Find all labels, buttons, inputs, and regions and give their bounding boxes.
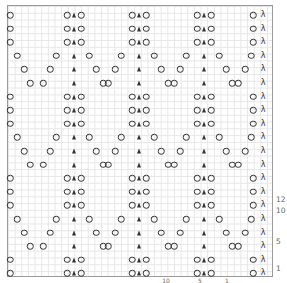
double-decrease-icon — [202, 108, 206, 113]
yarn-over-icon — [250, 25, 257, 32]
yarn-over-icon — [250, 93, 257, 100]
yarn-over-icon — [151, 134, 158, 141]
decrease-icon: λ — [261, 65, 266, 73]
double-decrease-icon — [202, 257, 206, 262]
yarn-over-icon — [177, 148, 184, 155]
yarn-over-icon — [78, 175, 85, 182]
yarn-over-icon — [27, 161, 34, 168]
yarn-over-icon — [250, 175, 257, 182]
decrease-icon: λ — [261, 52, 266, 60]
yarn-over-icon — [194, 93, 201, 100]
yarn-over-icon — [78, 270, 85, 277]
double-decrease-icon — [72, 257, 76, 262]
yarn-over-icon — [27, 80, 34, 87]
yarn-over-icon — [143, 107, 150, 114]
double-decrease-icon — [137, 67, 141, 72]
double-decrease-icon — [137, 203, 141, 208]
yarn-over-icon — [158, 148, 165, 155]
yarn-over-icon — [53, 134, 60, 141]
yarn-over-icon — [40, 243, 47, 250]
double-decrease-icon — [137, 271, 141, 276]
yarn-over-icon — [223, 148, 230, 155]
yarn-over-icon — [7, 39, 14, 46]
yarn-over-icon — [208, 93, 215, 100]
double-decrease-icon — [202, 176, 206, 181]
yarn-over-icon — [7, 270, 14, 277]
yarn-over-icon — [208, 121, 215, 128]
double-decrease-icon — [137, 108, 141, 113]
yarn-over-icon — [171, 161, 178, 168]
row-number-label: 10 — [276, 205, 286, 214]
yarn-over-icon — [194, 39, 201, 46]
yarn-over-icon — [86, 216, 93, 223]
double-decrease-icon — [72, 26, 76, 31]
yarn-over-icon — [143, 25, 150, 32]
decrease-icon: λ — [261, 79, 266, 87]
yarn-over-icon — [86, 134, 93, 141]
yarn-over-icon — [143, 93, 150, 100]
double-decrease-icon — [202, 53, 206, 58]
yarn-over-icon — [208, 189, 215, 196]
yarn-over-icon — [64, 257, 71, 264]
double-decrease-icon — [72, 108, 76, 113]
yarn-over-icon — [112, 66, 119, 73]
yarn-over-icon — [194, 189, 201, 196]
yarn-over-icon — [47, 229, 54, 236]
double-decrease-icon — [72, 176, 76, 181]
yarn-over-icon — [143, 189, 150, 196]
yarn-over-icon — [93, 66, 100, 73]
yarn-over-icon — [64, 93, 71, 100]
double-decrease-icon — [72, 217, 76, 222]
yarn-over-icon — [177, 229, 184, 236]
yarn-over-icon — [14, 53, 21, 60]
yarn-over-icon — [183, 216, 190, 223]
yarn-over-icon — [143, 257, 150, 264]
yarn-over-icon — [143, 175, 150, 182]
yarn-over-icon — [194, 12, 201, 19]
double-decrease-icon — [137, 257, 141, 262]
yarn-over-icon — [7, 121, 14, 128]
yarn-over-icon — [194, 202, 201, 209]
double-decrease-icon — [202, 203, 206, 208]
double-decrease-icon — [137, 81, 141, 86]
yarn-over-icon — [7, 202, 14, 209]
yarn-over-icon — [242, 229, 249, 236]
yarn-over-icon — [194, 107, 201, 114]
yarn-over-icon — [78, 202, 85, 209]
yarn-over-icon — [53, 53, 60, 60]
yarn-over-icon — [129, 202, 136, 209]
yarn-over-icon — [158, 229, 165, 236]
yarn-over-icon — [64, 39, 71, 46]
yarn-over-icon — [118, 53, 125, 60]
double-decrease-icon — [72, 121, 76, 126]
yarn-over-icon — [208, 202, 215, 209]
yarn-over-icon — [21, 66, 28, 73]
yarn-over-icon — [143, 12, 150, 19]
double-decrease-icon — [72, 149, 76, 154]
yarn-over-icon — [250, 121, 257, 128]
yarn-over-icon — [40, 161, 47, 168]
double-decrease-icon — [202, 13, 206, 18]
double-decrease-icon — [202, 217, 206, 222]
decrease-icon: λ — [261, 188, 266, 196]
stitch-number-label: 1 — [225, 277, 229, 283]
yarn-over-icon — [78, 189, 85, 196]
decrease-icon: λ — [261, 256, 266, 264]
yarn-over-icon — [194, 121, 201, 128]
yarn-over-icon — [129, 93, 136, 100]
double-decrease-icon — [72, 13, 76, 18]
yarn-over-icon — [216, 216, 223, 223]
yarn-over-icon — [194, 257, 201, 264]
yarn-over-icon — [86, 53, 93, 60]
double-decrease-icon — [202, 189, 206, 194]
double-decrease-icon — [72, 135, 76, 140]
double-decrease-icon — [202, 40, 206, 45]
double-decrease-icon — [202, 81, 206, 86]
yarn-over-icon — [105, 80, 112, 87]
double-decrease-icon — [202, 162, 206, 167]
double-decrease-icon — [202, 121, 206, 126]
double-decrease-icon — [202, 149, 206, 154]
yarn-over-icon — [208, 12, 215, 19]
double-decrease-icon — [72, 189, 76, 194]
decrease-icon: λ — [261, 174, 266, 182]
